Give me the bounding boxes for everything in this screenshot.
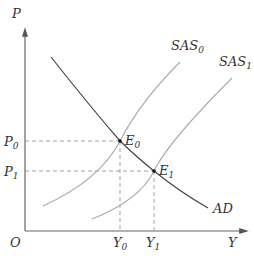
ad-as-diagram: P Y O P0 P1 Y0 Y1 E0 E1 SAS0 SAS1 AD (0, 0, 254, 258)
y1-label: Y1 (146, 235, 160, 252)
p1-label: P1 (3, 164, 18, 181)
sas0-curve (43, 62, 180, 206)
y-axis-label: P (11, 6, 21, 21)
origin-label: O (10, 235, 21, 250)
e0-label: E0 (124, 133, 141, 150)
x-axis-label: Y (228, 235, 238, 250)
sas0-label: SAS0 (171, 38, 204, 55)
p0-label: P0 (3, 134, 19, 151)
e1-label: E1 (158, 163, 174, 180)
e0-point (118, 139, 122, 143)
ad-label: AD (212, 201, 233, 216)
sas1-curve (92, 78, 232, 219)
e1-point (152, 169, 156, 173)
y0-label: Y0 (113, 235, 128, 252)
sas1-label: SAS1 (219, 54, 252, 71)
